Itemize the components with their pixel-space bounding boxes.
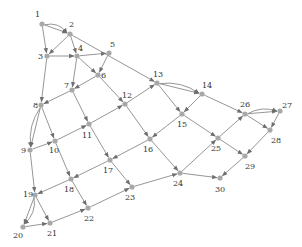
node-13 bbox=[154, 80, 159, 85]
node-label-15: 15 bbox=[177, 120, 187, 129]
edge-26-to-28 bbox=[247, 115, 267, 128]
edge-19-to-21 bbox=[36, 197, 48, 220]
node-label-27: 27 bbox=[282, 101, 292, 110]
node-label-23: 23 bbox=[125, 193, 135, 202]
directed-graph-diagram: 1234567891011121314151617181920212223242… bbox=[0, 0, 302, 247]
node-24 bbox=[177, 170, 182, 175]
edge-27-to-28 bbox=[271, 113, 278, 127]
edge-5-to-6 bbox=[99, 55, 107, 72]
node-8 bbox=[38, 102, 43, 107]
edge-20-to-21 bbox=[26, 223, 47, 226]
edges-layer bbox=[24, 24, 279, 227]
edge-14-to-15 bbox=[184, 96, 200, 112]
edge-29-to-30 bbox=[222, 158, 243, 176]
edge-4-to-6 bbox=[79, 58, 96, 73]
node-4 bbox=[74, 53, 79, 58]
edge-8-to-10 bbox=[42, 107, 54, 138]
edge-28-to-29 bbox=[247, 132, 268, 154]
node-label-28: 28 bbox=[271, 136, 281, 145]
edge-22-to-23 bbox=[90, 188, 129, 207]
node-label-7: 7 bbox=[64, 81, 69, 90]
node-label-25: 25 bbox=[211, 144, 221, 153]
node-7 bbox=[69, 87, 74, 92]
edge-14-to-26 bbox=[204, 95, 242, 113]
node-label-2: 2 bbox=[69, 20, 74, 29]
node-22 bbox=[85, 205, 90, 210]
node-label-18: 18 bbox=[64, 185, 74, 194]
node-12 bbox=[122, 101, 127, 106]
edge-11-to-17 bbox=[90, 126, 108, 157]
node-label-29: 29 bbox=[245, 162, 255, 171]
node-label-5: 5 bbox=[110, 40, 115, 49]
node-label-8: 8 bbox=[33, 101, 38, 110]
node-label-13: 13 bbox=[153, 70, 163, 79]
edge-25-to-29 bbox=[220, 139, 242, 154]
node-label-22: 22 bbox=[84, 214, 94, 223]
node-29 bbox=[242, 153, 247, 158]
edge-19-to-20 bbox=[24, 197, 34, 224]
node-label-16: 16 bbox=[143, 145, 153, 154]
node-label-3: 3 bbox=[38, 52, 43, 61]
node-label-11: 11 bbox=[82, 131, 92, 140]
node-3 bbox=[44, 53, 49, 58]
node-label-24: 24 bbox=[173, 179, 183, 188]
node-9 bbox=[27, 147, 32, 152]
edge-13-to-14 bbox=[160, 84, 199, 94]
edge-25-to-26 bbox=[220, 116, 243, 136]
node-10 bbox=[52, 138, 57, 143]
node-label-26: 26 bbox=[240, 100, 250, 109]
edge-7-to-11 bbox=[73, 92, 87, 121]
node-label-12: 12 bbox=[122, 91, 132, 100]
edge-13-to-15 bbox=[159, 85, 180, 112]
node-5 bbox=[106, 50, 111, 55]
edge-12-to-16 bbox=[127, 106, 149, 136]
node-label-9: 9 bbox=[21, 146, 26, 155]
edge-6-to-7 bbox=[75, 76, 96, 88]
edge-2-to-4 bbox=[71, 36, 76, 53]
node-20 bbox=[20, 224, 25, 229]
edge-3-to-8 bbox=[41, 59, 46, 102]
node-2 bbox=[67, 31, 72, 36]
node-28 bbox=[267, 127, 272, 132]
edge-15-to-25 bbox=[184, 115, 215, 136]
edge-23-to-24 bbox=[134, 174, 177, 186]
edge-17-to-23 bbox=[112, 162, 130, 185]
node-1 bbox=[39, 21, 44, 26]
node-21 bbox=[47, 220, 52, 225]
node-label-6: 6 bbox=[101, 71, 106, 80]
node-label-17: 17 bbox=[103, 166, 113, 175]
edge-18-to-22 bbox=[72, 181, 86, 205]
node-26 bbox=[242, 111, 247, 116]
node-23 bbox=[129, 184, 134, 189]
edge-16-to-24 bbox=[152, 141, 178, 171]
node-6 bbox=[95, 72, 100, 77]
edge-24-to-30 bbox=[183, 173, 217, 177]
node-15 bbox=[179, 111, 184, 116]
node-label-14: 14 bbox=[202, 81, 212, 90]
node-label-30: 30 bbox=[215, 185, 225, 194]
node-11 bbox=[86, 121, 91, 126]
edge-7-to-8 bbox=[44, 91, 70, 104]
edge-6-to-12 bbox=[100, 77, 123, 102]
edge-4-to-5 bbox=[80, 53, 106, 55]
node-17 bbox=[107, 157, 112, 162]
node-label-1: 1 bbox=[35, 10, 40, 19]
edge-11-to-12 bbox=[91, 106, 122, 123]
node-label-20: 20 bbox=[13, 231, 23, 240]
edge-8-to-9 bbox=[31, 108, 41, 147]
node-18 bbox=[68, 176, 73, 181]
node-30 bbox=[217, 175, 222, 180]
labels-layer: 1234567891011121314151617181920212223242… bbox=[13, 10, 292, 240]
node-label-4: 4 bbox=[78, 44, 83, 53]
edge-2-to-3 bbox=[49, 36, 68, 54]
edge-15-to-16 bbox=[152, 116, 180, 137]
edge-21-to-22 bbox=[52, 209, 85, 222]
node-25 bbox=[215, 135, 220, 140]
edge-9-to-19 bbox=[30, 153, 34, 192]
node-label-21: 21 bbox=[47, 229, 57, 238]
node-14 bbox=[199, 91, 204, 96]
edge-1-to-3 bbox=[42, 27, 46, 53]
nodes-layer bbox=[20, 21, 282, 229]
node-label-10: 10 bbox=[49, 146, 59, 155]
node-label-19: 19 bbox=[23, 190, 33, 199]
